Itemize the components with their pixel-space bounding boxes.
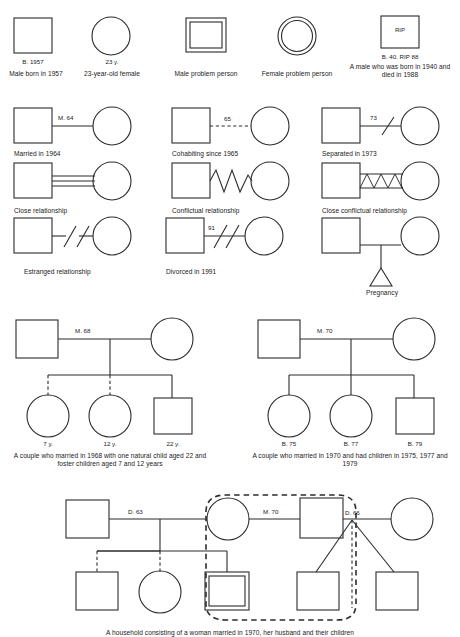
bottom-sibship-left	[97, 519, 227, 572]
link-label-married: M. 64	[58, 114, 73, 121]
pair-close-relationship	[14, 162, 131, 200]
bottom-union-label-third: D. 66	[345, 509, 360, 516]
caption-pregnancy: Pregnancy	[355, 289, 409, 297]
bottom-children-right	[297, 572, 418, 610]
family-left-child-label-0: 7 y.	[28, 440, 68, 447]
pair-close-conflictual-relationship	[322, 162, 439, 200]
symbol-caption-male-problem: Male problem person	[165, 70, 247, 78]
pair-conflictual-relationship	[172, 162, 289, 200]
pair-divorced	[166, 217, 283, 255]
symbol-caption-female-age: 23-year-old female	[76, 70, 148, 78]
family-left-child-label-2: 22 y.	[153, 440, 193, 447]
pair-married	[14, 107, 131, 145]
caption-conflictual-relationship: Conflictual relationship	[172, 207, 240, 215]
symbol-code-male-born: B. 1957	[3, 58, 63, 65]
household-dashed-outline	[206, 495, 356, 620]
family-bottom-caption: A household consisting of a woman marrie…	[40, 629, 420, 637]
caption-estranged-relationship: Estranged relationship	[24, 268, 91, 276]
pair-cohabiting	[172, 107, 289, 145]
symbol-male-square	[14, 18, 52, 53]
family-right-children	[268, 395, 434, 437]
family-right-child-label-1: B. 77	[331, 440, 371, 447]
family-right-union-label: M. 70	[317, 327, 332, 334]
family-left-parents	[16, 318, 193, 360]
family-right-parents	[258, 318, 435, 360]
family-left-union-label: M. 68	[75, 327, 90, 334]
symbol-caption-male-deceased: A male who was born in 1940 and died in …	[344, 63, 456, 80]
link-label-cohabiting: 65	[224, 115, 231, 122]
symbol-caption-male-born: Male born in 1957	[0, 70, 72, 78]
bottom-sibship-right	[316, 520, 394, 608]
symbol-female-circle	[92, 17, 130, 55]
pair-separated	[322, 107, 439, 145]
family-left-children	[27, 395, 192, 437]
family-right-child-label-2: B. 79	[395, 440, 435, 447]
bottom-union-label-first: D. 63	[128, 508, 143, 515]
caption-cohabiting: Cohabiting since 1965	[172, 150, 238, 158]
caption-divorced: Divorced in 1991	[166, 268, 216, 276]
family-right-caption: A couple who married in 1970 and had chi…	[252, 452, 448, 469]
bottom-union-label-second: M. 70	[263, 508, 278, 515]
rip-inner-text: RIP	[381, 27, 419, 33]
symbol-female-problem-double-circle	[278, 17, 316, 55]
symbol-caption-female-problem: Female problem person	[253, 70, 341, 78]
caption-separated: Separated in 1973	[322, 150, 377, 158]
link-label-divorced: 91	[208, 224, 215, 231]
caption-close-relationship: Close relationship	[14, 207, 67, 215]
caption-married: Married in 1964	[14, 150, 61, 158]
bottom-generation1	[66, 498, 433, 540]
family-left-caption: A couple who married in 1968 with one na…	[10, 452, 210, 469]
symbol-code-male-deceased: B. 40. RIP 88	[356, 53, 444, 60]
bottom-children-left	[76, 571, 249, 613]
pair-pregnancy	[322, 217, 439, 286]
symbol-code-female-age: 23 y.	[83, 58, 141, 65]
family-right-child-label-0: B. 75	[269, 440, 309, 447]
caption-close-conflictual-relationship: Close conflictual relationship	[322, 207, 407, 215]
symbol-male-problem-double-square	[186, 18, 226, 52]
family-left-child-label-1: 12 y.	[90, 440, 130, 447]
link-label-separated: 73	[370, 114, 377, 121]
pair-estranged-relationship	[14, 217, 131, 255]
